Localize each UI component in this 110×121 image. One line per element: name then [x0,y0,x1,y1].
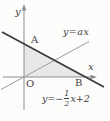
equation-line2-prefix: y=− [42,94,63,104]
y-axis-arrow-icon [22,4,27,11]
equation-label-line2: y=− 1 2 x+2 [42,90,90,108]
coordinate-plane-figure: y x A O B y=ax y=− 1 2 x+2 [0,0,110,121]
x-axis-arrow-icon [91,75,98,80]
point-label-a: A [31,35,38,45]
equation-line2-numerator: 1 [64,90,69,98]
point-label-b: B [75,78,82,88]
line-y-equals-neg-half-x-plus-2 [2,32,104,87]
y-axis-label: y [15,7,21,17]
equation-line2-suffix: x+2 [70,94,89,104]
equation-label-line1: y=ax [63,27,89,37]
point-label-o: O [26,79,34,89]
equation-line2-denominator: 2 [64,98,69,108]
equation-line2-fraction: 1 2 [64,90,69,108]
x-axis-label: x [88,62,94,72]
